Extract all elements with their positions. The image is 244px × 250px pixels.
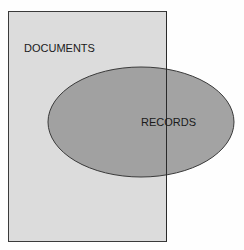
venn-diagram: DOCUMENTS RECORDS: [0, 0, 244, 250]
diagram-svg: DOCUMENTS RECORDS: [0, 0, 244, 250]
records-label: RECORDS: [141, 116, 196, 128]
documents-label: DOCUMENTS: [24, 42, 95, 54]
